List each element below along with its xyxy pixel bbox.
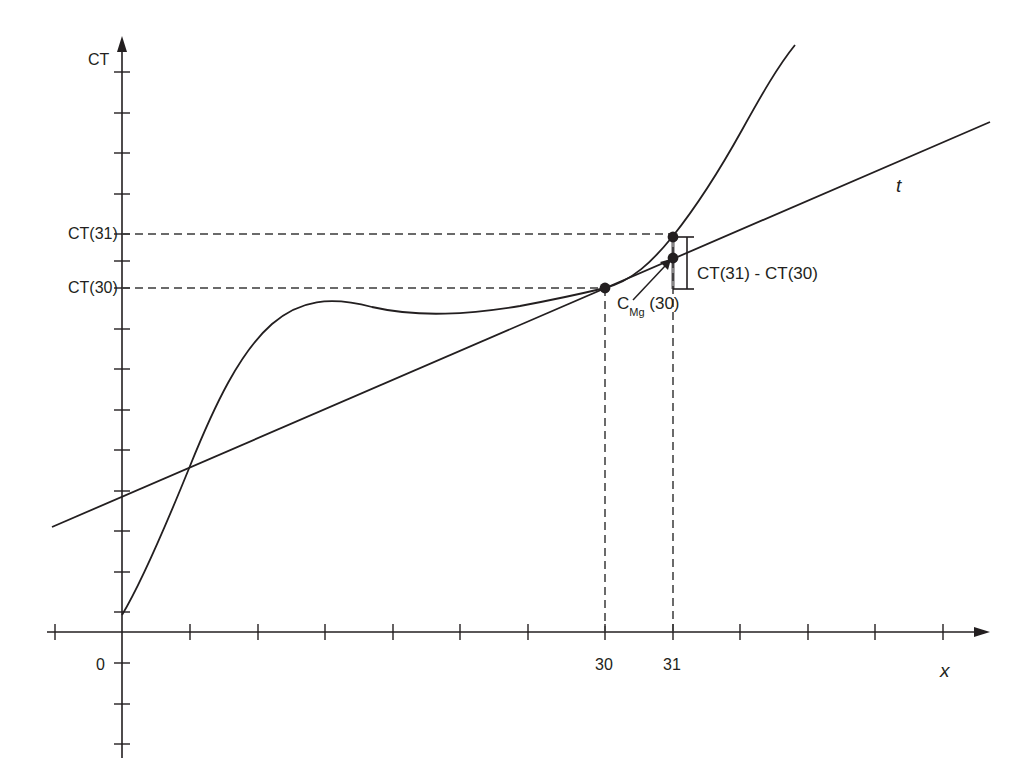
y-tick-label-ct30: CT(30) [68, 280, 118, 296]
marginal-cost-subscript: Mg [629, 306, 644, 318]
y-axis-title: CT [88, 52, 109, 68]
x-tick-label-31: 31 [663, 657, 681, 673]
marker-ct31-curve [668, 232, 679, 243]
marker-ct31-tangent [668, 253, 679, 264]
difference-label: CT(31) - CT(30) [697, 265, 818, 282]
x-tick-label-30: 30 [595, 657, 613, 673]
origin-label: 0 [96, 657, 105, 673]
ct-curve [122, 45, 795, 615]
tangent-line [52, 122, 990, 527]
x-axis-title: x [940, 661, 950, 680]
marginal-cost-tail: (30) [645, 294, 680, 313]
marginal-cost-label: CMg (30) [617, 295, 680, 315]
tangent-line-label: t [896, 176, 901, 195]
y-tick-label-ct31: CT(31) [68, 226, 118, 242]
chart-figure: CT CT(31) CT(30) 0 30 31 x t CT(31) - CT… [0, 0, 1033, 775]
marginal-cost-base: C [617, 294, 629, 313]
marker-ct30 [600, 283, 611, 294]
chart-canvas [0, 0, 1033, 775]
x-axis-arrowhead [974, 627, 990, 637]
axes-group [47, 36, 990, 758]
y-axis-arrowhead [117, 36, 127, 52]
difference-bracket [673, 237, 694, 289]
